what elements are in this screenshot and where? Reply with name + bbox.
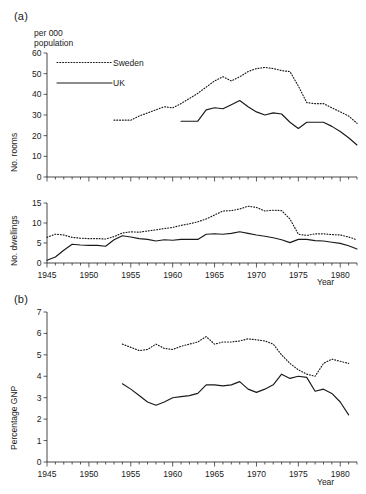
y-tick-label-10: 10 [32, 218, 42, 228]
x-tick-label-1945: 1945 [38, 270, 57, 280]
y-tick-label-1: 1 [37, 436, 42, 446]
y-tick-label-5: 5 [37, 238, 42, 248]
y-tick-label-20: 20 [32, 131, 42, 141]
dwellings-y-ticks: 051015 [32, 198, 47, 268]
y-tick-label-7: 7 [37, 307, 42, 317]
plot-surface: 0102030405060 Sweden UK 051015 194519501… [0, 0, 366, 494]
x-tick-label-1945: 1945 [38, 469, 57, 479]
x-tick-label-1970: 1970 [247, 270, 266, 280]
gnp-x-ticks [47, 462, 357, 467]
y-tick-label-4: 4 [37, 371, 42, 381]
x-tick-label-1950: 1950 [79, 270, 98, 280]
y-tick-label-30: 30 [32, 110, 42, 120]
x-tick-label-1975: 1975 [289, 469, 308, 479]
y-tick-label-60: 60 [32, 48, 42, 58]
x-tick-label-1960: 1960 [163, 270, 182, 280]
y-tick-label-0: 0 [37, 172, 42, 182]
figure-housing-indicators: (a) per 000population No. rooms No. dwel… [0, 0, 366, 494]
series-rooms-sweden [114, 67, 357, 123]
y-tick-label-40: 40 [32, 89, 42, 99]
dwellings-axes [47, 203, 357, 263]
y-tick-label-15: 15 [32, 198, 42, 208]
gnp-axes [47, 312, 357, 462]
y-tick-label-0: 0 [37, 258, 42, 268]
legend-label-sweden: Sweden [113, 58, 144, 68]
x-tick-label-1975: 1975 [289, 270, 308, 280]
series-gnp-sweden [122, 337, 348, 377]
x-tick-label-1980: 1980 [331, 469, 350, 479]
series-gnp-uk [122, 374, 348, 415]
x-tick-label-1960: 1960 [163, 469, 182, 479]
y-tick-label-50: 50 [32, 69, 42, 79]
x-tick-label-1970: 1970 [247, 469, 266, 479]
x-tick-label-1965: 1965 [205, 270, 224, 280]
chart-rooms: 0102030405060 Sweden UK [32, 48, 357, 182]
legend: Sweden UK [57, 58, 144, 89]
x-tick-label-1955: 1955 [121, 469, 140, 479]
y-tick-label-3: 3 [37, 393, 42, 403]
x-tick-label-1965: 1965 [205, 469, 224, 479]
x-tick-label-1980: 1980 [331, 270, 350, 280]
rooms-y-ticks: 0102030405060 [32, 48, 47, 182]
x-tick-label-1950: 1950 [79, 469, 98, 479]
gnp-y-ticks: 01234567 [37, 307, 47, 467]
y-tick-label-6: 6 [37, 328, 42, 338]
dwellings-x-ticks [47, 263, 357, 268]
gnp-x-tick-labels: 19451950195519601965197019751980 [38, 469, 350, 479]
y-tick-label-2: 2 [37, 414, 42, 424]
rooms-x-ticks [47, 177, 357, 182]
y-tick-label-5: 5 [37, 350, 42, 360]
chart-dwellings: 051015 19451950195519601965197019751980 [32, 198, 357, 280]
y-tick-label-0: 0 [37, 457, 42, 467]
legend-label-uk: UK [113, 78, 125, 88]
series-dwellings-uk [47, 232, 357, 260]
dwellings-x-tick-labels: 19451950195519601965197019751980 [38, 270, 350, 280]
chart-gnp: 01234567 1945195019551960196519701975198… [37, 307, 357, 479]
series-dwellings-sweden [47, 206, 357, 240]
x-tick-label-1955: 1955 [121, 270, 140, 280]
y-tick-label-10: 10 [32, 151, 42, 161]
